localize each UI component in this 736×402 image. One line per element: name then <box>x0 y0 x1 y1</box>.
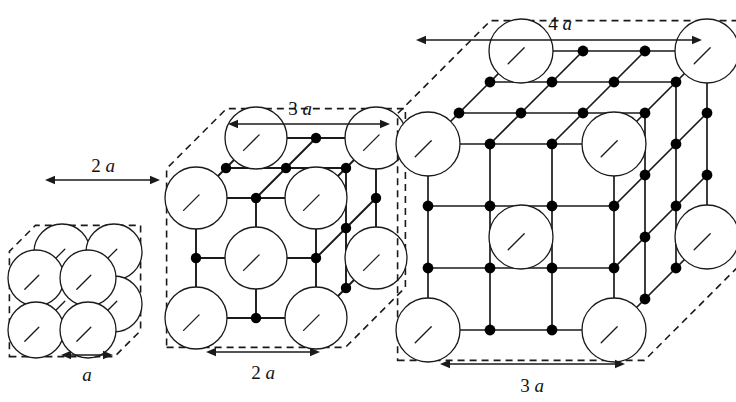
bond-network <box>428 51 707 330</box>
arrowhead-left <box>45 176 55 184</box>
dimension-label: 4 a <box>548 13 572 34</box>
lattice-cell-2 <box>165 107 407 349</box>
dimension-label: a <box>82 364 92 385</box>
dimension-top-1: 2 a <box>45 155 160 184</box>
dimension-top-3: 4 a <box>416 13 702 44</box>
lattice-diagram: 2 aa3 a2 a4 a3 a <box>0 0 736 402</box>
arrowhead-left <box>440 360 450 368</box>
arrowhead-right <box>103 351 113 359</box>
dimension-bottom-3: 3 a <box>440 360 625 396</box>
arrowhead-left <box>206 348 216 356</box>
arrowhead-right <box>150 176 160 184</box>
arrowhead-left <box>61 351 71 359</box>
corner-sphere <box>675 19 736 83</box>
corner-sphere-group <box>165 107 407 349</box>
corner-sphere <box>675 205 736 269</box>
dimension-label: 3 a <box>288 98 312 119</box>
dimension-label: 2 a <box>91 155 115 176</box>
lattice-cell-1 <box>8 224 142 358</box>
arrowhead-left <box>416 36 426 44</box>
figure-canvas: 2 aa3 a2 a4 a3 a <box>0 0 736 402</box>
dimension-label: 2 a <box>251 362 275 383</box>
lattice-cell-3 <box>396 19 736 362</box>
corner-sphere-group <box>396 19 736 362</box>
corner-sphere-group <box>8 224 142 358</box>
dimension-label: 3 a <box>520 375 544 396</box>
dimension-bottom-2: 2 a <box>206 348 320 383</box>
